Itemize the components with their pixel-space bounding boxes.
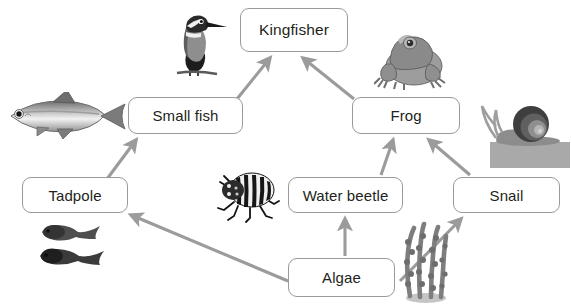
arrow-waterbeetle-to-frog (381, 140, 393, 175)
tadpoles-illustration (34, 220, 110, 272)
arrow-smallfish-to-kingfisher (237, 58, 270, 99)
node-kingfisher[interactable]: Kingfisher (240, 8, 348, 52)
food-web-diagram: Kingfisher Small fish Frog Tadpole Water… (0, 0, 571, 304)
node-kingfisher-label: Kingfisher (259, 22, 329, 38)
node-small-fish-label: Small fish (152, 108, 218, 123)
arrow-algae-to-tadpole (131, 215, 288, 281)
kingfisher-bird-illustration (172, 8, 230, 80)
node-frog-label: Frog (390, 108, 421, 123)
node-frog[interactable]: Frog (352, 97, 460, 134)
beetle-illustration (216, 166, 282, 224)
arrow-snail-to-frog (429, 140, 470, 175)
node-small-fish[interactable]: Small fish (128, 97, 243, 134)
node-snail-label: Snail (490, 188, 524, 203)
node-tadpole-label: Tadpole (48, 188, 101, 203)
arrow-tadpole-to-smallfish (107, 140, 136, 179)
snail-illustration (476, 98, 570, 168)
node-tadpole[interactable]: Tadpole (22, 177, 128, 213)
node-water-beetle[interactable]: Water beetle (288, 177, 403, 213)
node-snail[interactable]: Snail (453, 177, 560, 213)
fish-illustration (1, 92, 127, 140)
algae-illustration (398, 218, 454, 304)
arrow-frog-to-kingfisher (303, 58, 354, 99)
node-algae-label: Algae (322, 270, 361, 285)
frog-illustration (374, 26, 448, 92)
node-algae[interactable]: Algae (288, 258, 395, 297)
node-water-beetle-label: Water beetle (303, 188, 389, 203)
